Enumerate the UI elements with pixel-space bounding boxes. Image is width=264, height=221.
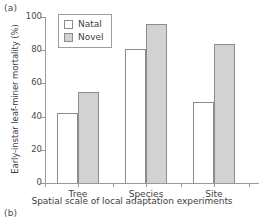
y-tick-label-80: 80 [31,44,42,54]
x-tick-end [249,183,250,187]
y-tick-label-20: 20 [31,144,42,154]
novel-swatch-icon [64,33,73,42]
y-tick-label-0: 0 [37,177,42,187]
x-axis-title: Spatial scale of local adaptation experi… [0,196,264,206]
chart-legend: Natal Novel [58,14,112,48]
x-tick-sep-2 [181,183,182,187]
y-tick-label-100: 100 [26,11,42,21]
natal-swatch-icon [64,20,73,29]
y-tick-label-40: 40 [31,111,42,121]
x-tick-sep-1 [113,183,114,187]
bar-tree-novel [78,92,99,183]
figure-panel-a: (a) (b) Early-instar leaf-miner mortalit… [0,0,264,221]
x-tick-site [214,183,215,187]
y-axis-title: Early-instar leaf-miner mortality (%) [10,23,20,175]
legend-label-novel: Novel [78,33,104,42]
y-tick-label-60: 60 [31,77,42,87]
bar-species-novel [146,24,167,183]
legend-label-natal: Natal [78,20,102,29]
legend-item-natal: Natal [64,18,104,31]
x-tick-tree [78,183,79,187]
y-axis-line [45,17,46,184]
panel-label-b: (b) [4,208,17,218]
x-tick-start [45,183,46,187]
x-tick-species [146,183,147,187]
bar-site-natal [193,102,214,183]
bar-site-novel [214,44,235,183]
panel-label-a: (a) [4,3,17,13]
bar-tree-natal [57,113,78,183]
bar-species-natal [125,49,146,183]
legend-item-novel: Novel [64,31,104,44]
